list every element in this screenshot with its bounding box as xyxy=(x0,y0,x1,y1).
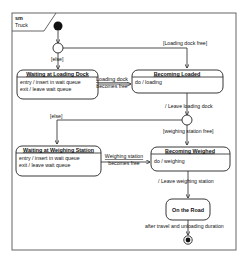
choice-node-1 xyxy=(53,43,63,53)
svg-text:exit / leave wait queue: exit / leave wait queue xyxy=(19,162,70,168)
guard-weighing-station-free: [weighing station free] xyxy=(163,128,214,134)
svg-text:On the Road: On the Road xyxy=(172,207,204,213)
guard-else-1: [else] xyxy=(51,56,64,62)
frame-name: Truck xyxy=(15,22,28,28)
svg-text:do / loading: do / loading xyxy=(135,79,162,85)
svg-text:exit / leave wait queue: exit / leave wait queue xyxy=(20,86,71,92)
frame-kind: sm xyxy=(15,15,23,21)
event-loading-dock-becomes-free: Loading dock xyxy=(96,76,128,82)
event-weighing-station-becomes-free: Weighing station xyxy=(105,153,143,159)
svg-text:entry / insert in wait queue: entry / insert in wait queue xyxy=(20,79,81,85)
state-machine-diagram: sm Truck [else] [Loading dock free] Wait… xyxy=(0,0,247,262)
guard-else-2: [else] xyxy=(50,113,63,119)
svg-text:Waiting at Weighing Station: Waiting at Weighing Station xyxy=(23,147,94,153)
svg-text:becomes free: becomes free xyxy=(96,83,128,89)
action-leave-loading-dock: / Leave loading dock xyxy=(165,103,213,109)
choice-node-2 xyxy=(182,115,192,125)
initial-node xyxy=(54,22,63,31)
state-becoming-weighed: Becoming Weighed do / weighing xyxy=(151,147,230,171)
svg-text:becomes free: becomes free xyxy=(108,160,140,166)
state-waiting-at-loading-dock: Waiting at Loading Dock entry / insert i… xyxy=(17,70,98,99)
svg-text:Becoming Loaded: Becoming Loaded xyxy=(154,71,201,77)
action-leave-weighing-station: / Leave weighing station xyxy=(158,178,214,184)
state-becoming-loaded: Becoming Loaded do / loading xyxy=(132,70,223,93)
svg-text:do / weighing: do / weighing xyxy=(154,158,185,164)
state-on-the-road: On the Road xyxy=(166,199,210,220)
event-after-travel: after travel and unloading duration xyxy=(145,223,224,229)
state-waiting-at-weighing-station: Waiting at Weighing Station entry / inse… xyxy=(16,146,101,176)
svg-text:Becoming Weighed: Becoming Weighed xyxy=(165,148,215,154)
svg-text:entry / insert in wait queue: entry / insert in wait queue xyxy=(19,155,80,161)
guard-loading-dock-free: [Loading dock free] xyxy=(163,40,208,46)
svg-text:Waiting at Loading Dock: Waiting at Loading Dock xyxy=(26,71,89,77)
